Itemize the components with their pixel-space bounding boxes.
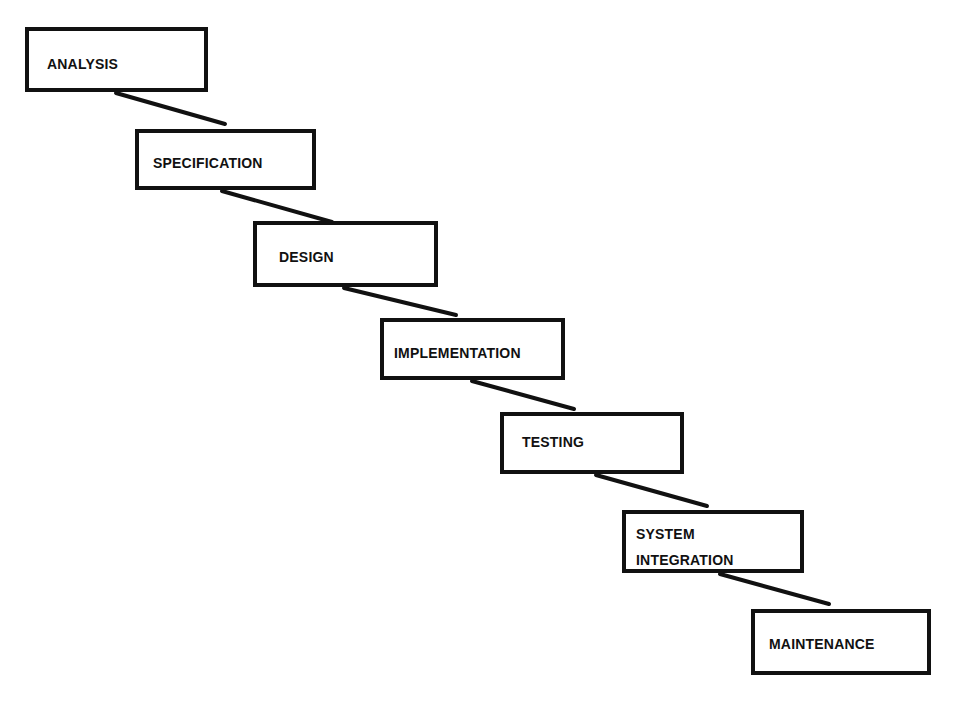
stage-label: ANALYSIS — [47, 51, 118, 77]
stage-label-line: IMPLEMENTATION — [394, 340, 521, 366]
stage-label: SYSTEMINTEGRATION — [636, 521, 734, 573]
stage-label-line: SPECIFICATION — [153, 150, 263, 176]
connector-line — [596, 475, 707, 506]
connector-line — [720, 574, 829, 604]
stage-box-testing: TESTING — [500, 412, 684, 474]
stage-box-system-integration: SYSTEMINTEGRATION — [622, 510, 804, 573]
connector-line — [344, 288, 456, 315]
stage-box-specification: SPECIFICATION — [135, 129, 316, 190]
stage-label: DESIGN — [279, 244, 334, 270]
stage-label: TESTING — [522, 429, 584, 455]
stage-label-line: SYSTEM — [636, 521, 734, 547]
stage-label-line: ANALYSIS — [47, 51, 118, 77]
stage-label: SPECIFICATION — [153, 150, 263, 176]
stage-label-line: TESTING — [522, 429, 584, 455]
connector-line — [222, 191, 332, 222]
stage-box-implementation: IMPLEMENTATION — [380, 318, 565, 380]
connector-line — [116, 93, 225, 124]
stage-box-design: DESIGN — [253, 221, 438, 287]
stage-box-maintenance: MAINTENANCE — [751, 609, 931, 675]
stage-label: MAINTENANCE — [769, 631, 875, 657]
stage-label: IMPLEMENTATION — [394, 340, 521, 366]
stage-label-line: INTEGRATION — [636, 547, 734, 573]
stage-label-line: DESIGN — [279, 244, 334, 270]
stage-box-analysis: ANALYSIS — [25, 27, 208, 92]
stage-label-line: MAINTENANCE — [769, 631, 875, 657]
connector-line — [472, 381, 574, 409]
